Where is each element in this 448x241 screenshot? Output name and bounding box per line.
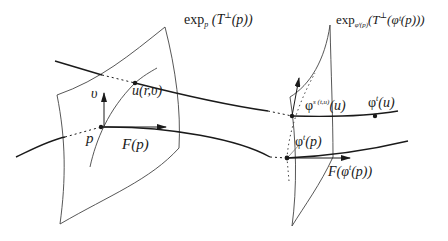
label-F-phi-t-p: F(φt(p)) (328, 164, 372, 179)
label-tail: (p) (305, 134, 321, 149)
label-head: F(φ (328, 164, 349, 179)
label-left-surface: expp (T⊥(p)) (184, 12, 253, 29)
label-sup: ⊥ (380, 11, 388, 20)
label-body: (T (208, 12, 224, 27)
label-F-p: F(p) (122, 137, 149, 152)
point-phi-t-p (285, 156, 290, 161)
label-base: φ (305, 98, 313, 113)
label-tail: (p)) (232, 12, 253, 27)
label-exp: exp (184, 12, 204, 27)
label-sup: ⊥ (224, 11, 232, 20)
left-surface-patch (57, 27, 179, 224)
upper-trajectory (55, 61, 398, 116)
point-p (99, 125, 103, 129)
label-phi-t-u: φt(u) (368, 95, 395, 110)
lower-trajectory (16, 127, 408, 158)
label-tail: (φᵗ(p))) (387, 12, 425, 27)
label-phi-s-u: φs (t,u)(u) (305, 99, 346, 113)
label-body: (T (368, 12, 380, 27)
label-tail: (p)) (351, 164, 372, 179)
label-right-surface: expφᵗ(p)(T⊥(φᵗ(p))) (336, 12, 425, 29)
label-u: u(r,υ) (132, 84, 162, 98)
point-phi-s-u (290, 114, 294, 118)
label-base: φ (295, 134, 303, 149)
label-v: υ (91, 87, 97, 101)
label-sup: s (t,u) (313, 98, 329, 106)
right-surface-patch (290, 25, 333, 226)
point-phi-t-u (373, 114, 377, 118)
label-subscript: φᵗ(p) (355, 21, 368, 29)
flow-diagram (0, 0, 448, 241)
label-base: φ (368, 95, 376, 110)
label-tail: (u) (329, 98, 345, 113)
label-tail: (u) (378, 95, 394, 110)
label-exp: exp (336, 12, 355, 27)
label-p: p (86, 131, 94, 146)
label-phi-t-p: φt(p) (295, 134, 322, 149)
